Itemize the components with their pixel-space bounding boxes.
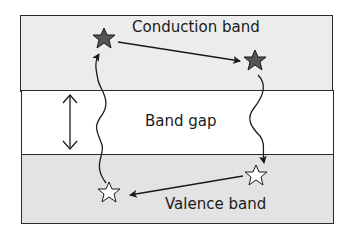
electron-drift-arrow bbox=[118, 42, 240, 61]
band-gap-double-arrow bbox=[63, 95, 77, 149]
electron-star-right bbox=[244, 50, 266, 70]
hole-drift-arrow bbox=[130, 176, 243, 195]
hole-star-right bbox=[245, 165, 267, 185]
electron-star-left bbox=[93, 28, 115, 48]
excitation-wavy-arrow bbox=[96, 54, 106, 183]
band-diagram-graphics bbox=[0, 0, 349, 233]
hole-star-left bbox=[98, 182, 120, 202]
recombination-wavy-arrow bbox=[250, 75, 264, 163]
